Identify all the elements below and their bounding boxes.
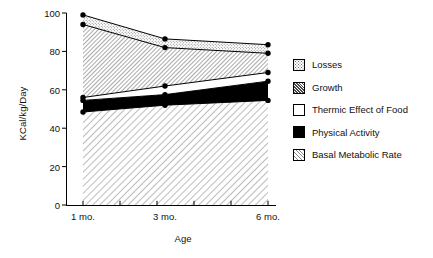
dense-hatch-swatch-icon	[293, 82, 305, 94]
xtick-label-1mo: 1 mo.	[53, 211, 113, 222]
stipple-swatch-icon	[293, 59, 305, 71]
xtick-label-3mo: 3 mo.	[135, 211, 195, 222]
legend-label-growth: Growth	[312, 83, 343, 93]
ytick-label-60: 60	[26, 84, 60, 95]
white-swatch-icon	[293, 104, 305, 116]
ytick-label-100: 100	[26, 8, 60, 19]
light-hatch-swatch-icon	[293, 149, 305, 161]
legend-item-basal-metabolic-rate: Basal Metabolic Rate	[293, 144, 433, 166]
legend-item-physical-activity: Physical Activity	[293, 121, 433, 143]
legend-label-thermic-effect-of-food: Thermic Effect of Food	[312, 105, 408, 115]
y-axis-title: KCal/kg/Day	[17, 44, 28, 184]
y-axis-ticks	[62, 13, 67, 205]
plot-area: 100 80 60 40 20 0 1 mo. 3 mo. 6 mo. KCal…	[0, 0, 290, 258]
ytick-label-80: 80	[26, 46, 60, 57]
figure: 100 80 60 40 20 0 1 mo. 3 mo. 6 mo. KCal…	[0, 0, 433, 258]
ytick-label-0: 0	[26, 200, 60, 211]
black-swatch-icon	[293, 126, 305, 138]
legend: Losses Growth Thermic Effect of Food Phy…	[293, 54, 433, 166]
ytick-label-20: 20	[26, 161, 60, 172]
x-axis-title: Age	[83, 233, 283, 244]
area-basal-metabolic-rate	[83, 100, 268, 205]
legend-label-basal-metabolic-rate: Basal Metabolic Rate	[312, 150, 402, 160]
legend-label-physical-activity: Physical Activity	[312, 128, 380, 138]
legend-item-losses: Losses	[293, 54, 433, 76]
ytick-label-40: 40	[26, 123, 60, 134]
legend-item-thermic-effect-of-food: Thermic Effect of Food	[293, 99, 433, 121]
xtick-label-6mo: 6 mo.	[238, 211, 298, 222]
legend-item-growth: Growth	[293, 76, 433, 98]
legend-label-losses: Losses	[312, 60, 342, 70]
